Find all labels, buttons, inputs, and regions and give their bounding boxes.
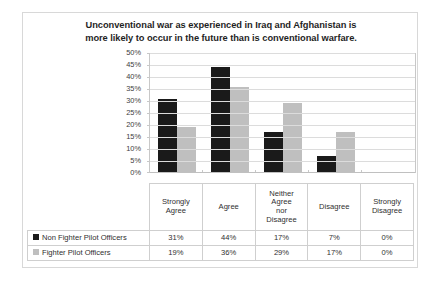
y-axis-tick-mark xyxy=(147,149,150,150)
data-cell: 17% xyxy=(308,246,361,261)
y-axis-tick-mark xyxy=(147,89,150,90)
legend-swatch-icon xyxy=(33,234,39,240)
data-cell: 0% xyxy=(361,231,414,246)
legend-entry-label: Non Fighter Pilot Officers xyxy=(42,233,127,242)
y-axis-tick-label: 15% xyxy=(126,133,141,141)
y-axis-tick-label: 45% xyxy=(126,61,141,69)
y-axis-tick-mark xyxy=(147,65,150,66)
y-axis-tick-mark xyxy=(147,161,150,162)
bar xyxy=(177,127,196,173)
y-axis-tick-label: 0% xyxy=(130,169,141,177)
chart-title-line-1: Unconventional war as experienced in Ira… xyxy=(33,19,409,32)
data-table-corner-cell xyxy=(28,184,150,231)
y-axis-tick-mark xyxy=(147,77,150,78)
gridline xyxy=(150,53,415,54)
y-axis-tick-mark xyxy=(147,125,150,126)
gridline xyxy=(150,77,415,78)
data-cell: 36% xyxy=(202,246,255,261)
data-cell: 44% xyxy=(202,231,255,246)
column-header-line: Agree xyxy=(219,202,239,211)
data-cell: 29% xyxy=(255,246,308,261)
column-header-line: Disagree xyxy=(372,206,402,215)
data-table-body: StronglyAgreeAgreeNeitherAgreenorDisagre… xyxy=(28,184,414,261)
y-axis-tick-label: 20% xyxy=(126,121,141,129)
column-header-line: Disagree xyxy=(319,202,349,211)
y-axis-tick-label: 25% xyxy=(126,109,141,117)
legend-entry: Fighter Pilot Officers xyxy=(28,246,150,261)
gridline xyxy=(150,161,415,162)
table-row: Fighter Pilot Officers19%36%29%17%0% xyxy=(28,246,414,261)
bar xyxy=(264,132,283,173)
bar xyxy=(211,67,230,173)
y-axis-tick-mark xyxy=(147,53,150,54)
plot-area xyxy=(149,53,416,173)
column-header-line: Agree xyxy=(166,206,186,215)
y-axis-tick-labels: 50%45%40%35%30%25%20%15%10%5%0% xyxy=(101,53,143,173)
data-cell: 0% xyxy=(361,246,414,261)
gridline xyxy=(150,137,415,138)
gridline xyxy=(150,113,415,114)
column-header: NeitherAgreenorDisagree xyxy=(255,184,308,231)
y-axis-tick-label: 5% xyxy=(130,157,141,165)
gridline xyxy=(150,65,415,66)
plot-area-wrapper: 50%45%40%35%30%25%20%15%10%5%0% xyxy=(23,53,417,184)
axis-baseline xyxy=(150,172,415,173)
y-axis-tick-label: 40% xyxy=(126,73,141,81)
y-axis-tick-label: 30% xyxy=(126,97,141,105)
legend-swatch-icon xyxy=(33,249,39,255)
column-header-line: Disagree xyxy=(266,215,296,224)
data-cell: 31% xyxy=(150,231,203,246)
bar xyxy=(317,156,336,173)
column-header: StronglyAgree xyxy=(150,184,203,231)
chart-title-line-2: more likely to occur in the future than … xyxy=(33,32,409,45)
gridline xyxy=(150,125,415,126)
data-cell: 7% xyxy=(308,231,361,246)
data-cell: 19% xyxy=(150,246,203,261)
y-axis-tick-mark xyxy=(147,137,150,138)
column-header: Agree xyxy=(202,184,255,231)
y-axis-tick-mark xyxy=(147,172,150,173)
column-header: Disagree xyxy=(308,184,361,231)
y-axis-tick-mark xyxy=(147,113,150,114)
legend-entry: Non Fighter Pilot Officers xyxy=(28,231,150,246)
data-table-header-row: StronglyAgreeAgreeNeitherAgreenorDisagre… xyxy=(28,184,414,231)
y-axis-tick-label: 10% xyxy=(126,145,141,153)
data-cell: 17% xyxy=(255,231,308,246)
gridline xyxy=(150,149,415,150)
y-axis-tick-mark xyxy=(147,101,150,102)
gridline xyxy=(150,101,415,102)
column-header: StronglyDisagree xyxy=(361,184,414,231)
bar xyxy=(336,132,355,173)
chart-card: Unconventional war as experienced in Ira… xyxy=(22,12,418,268)
legend-entry-label: Fighter Pilot Officers xyxy=(42,248,111,257)
data-table: StronglyAgreeAgreeNeitherAgreenorDisagre… xyxy=(27,183,414,261)
gridline xyxy=(150,89,415,90)
table-row: Non Fighter Pilot Officers31%44%17%7%0% xyxy=(28,231,414,246)
y-axis-tick-label: 35% xyxy=(126,85,141,93)
chart-title: Unconventional war as experienced in Ira… xyxy=(33,19,409,45)
y-axis-tick-label: 50% xyxy=(126,49,141,57)
chart-screenshot: Unconventional war as experienced in Ira… xyxy=(0,0,440,287)
